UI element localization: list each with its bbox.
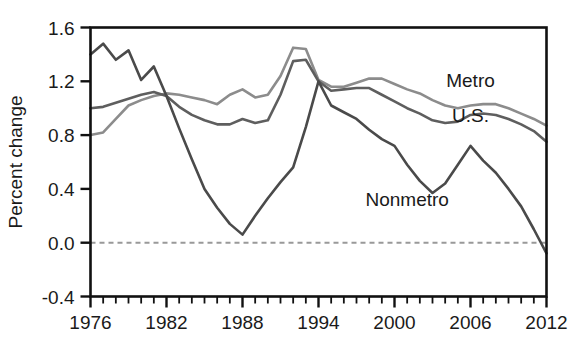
y-tick-label-_0_4: -0.4 (42, 287, 75, 308)
y-tick-label-1_2: 1.2 (48, 71, 74, 92)
x-tick-label-1982: 1982 (145, 312, 187, 333)
y-tick-label-0_0: 0.0 (48, 233, 74, 254)
y-axis-title: Percent change (5, 95, 26, 228)
y-tick-label-0_4: 0.4 (48, 179, 75, 200)
series-label-nonmetro: Nonmetro (365, 189, 448, 210)
y-tick-label-1_6: 1.6 (48, 18, 74, 39)
x-tick-label-2000: 2000 (373, 312, 415, 333)
x-axis-ticks (91, 297, 547, 308)
plot-frame (91, 28, 547, 297)
y-axis-tick-labels: 1.61.20.80.40.0-0.4 (42, 18, 75, 308)
line-chart: 1976198219881994200020062012 1.61.20.80.… (0, 0, 574, 350)
chart-container: 1976198219881994200020062012 1.61.20.80.… (0, 0, 574, 350)
series-label-u-s: U.S. (452, 105, 489, 126)
x-tick-label-1988: 1988 (221, 312, 263, 333)
x-tick-label-2006: 2006 (449, 312, 491, 333)
x-axis-tick-labels: 1976198219881994200020062012 (69, 312, 567, 333)
x-tick-label-1994: 1994 (297, 312, 340, 333)
x-tick-label-1976: 1976 (69, 312, 111, 333)
y-axis-ticks (81, 28, 91, 297)
y-tick-label-0_8: 0.8 (48, 125, 74, 146)
x-tick-label-2012: 2012 (525, 312, 567, 333)
plot-border (91, 28, 547, 297)
series-label-metro: Metro (446, 70, 495, 91)
